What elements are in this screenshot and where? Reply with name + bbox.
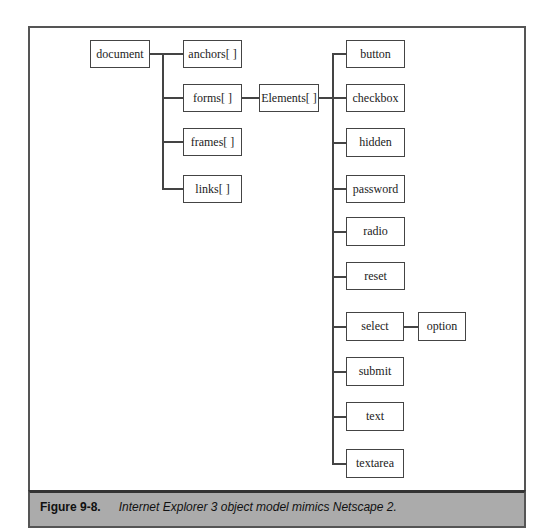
node-elements: Elements[ ] xyxy=(259,84,319,112)
connector-elements-trunk xyxy=(319,97,333,99)
node-document: document xyxy=(90,40,150,68)
node-button: button xyxy=(346,40,405,68)
node-frames: frames[ ] xyxy=(183,128,242,156)
connector-reset xyxy=(332,276,346,278)
connector-forms xyxy=(162,97,183,99)
caption-band: Figure 9-8.Internet Explorer 3 object mo… xyxy=(28,490,526,528)
node-checkbox: checkbox xyxy=(346,84,405,112)
node-links: links[ ] xyxy=(183,175,242,203)
caption-label: Figure 9-8. xyxy=(40,500,101,514)
connector-submit xyxy=(332,371,346,373)
connector-document-vertical xyxy=(162,53,164,189)
connector-select-option xyxy=(404,326,418,328)
connector-password xyxy=(332,188,346,190)
node-forms: forms[ ] xyxy=(183,84,242,112)
connector-button xyxy=(332,53,346,55)
connector-checkbox xyxy=(332,97,346,99)
connector-radio xyxy=(332,231,346,233)
node-select: select xyxy=(346,312,404,341)
node-anchors: anchors[ ] xyxy=(183,40,242,68)
node-radio: radio xyxy=(346,217,405,246)
connector-textarea xyxy=(332,463,346,465)
node-hidden: hidden xyxy=(346,128,405,157)
node-text: text xyxy=(346,402,404,431)
caption-text: Internet Explorer 3 object model mimics … xyxy=(119,500,397,514)
figure-caption: Figure 9-8.Internet Explorer 3 object mo… xyxy=(40,500,397,514)
node-password: password xyxy=(346,175,405,203)
node-textarea: textarea xyxy=(346,449,404,478)
connector-hidden xyxy=(332,142,346,144)
node-reset: reset xyxy=(346,262,405,290)
connector-text xyxy=(332,416,346,418)
connector-forms-elements xyxy=(242,97,259,99)
node-submit: submit xyxy=(346,357,404,386)
connector-elements-vertical xyxy=(332,53,334,464)
connector-anchors xyxy=(162,53,183,55)
node-option: option xyxy=(418,312,466,341)
connector-select xyxy=(332,326,346,328)
connector-links xyxy=(162,188,183,190)
connector-frames xyxy=(162,141,183,143)
